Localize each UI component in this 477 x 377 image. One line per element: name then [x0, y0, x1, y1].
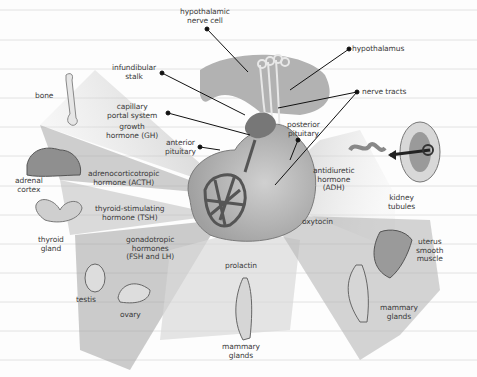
pituitary-diagram: hypothalamic nerve cell hypothalamus inf… [0, 0, 477, 377]
label-tsh: thyroid-stimulating hormone (TSH) [95, 205, 165, 222]
label-prolactin: prolactin [225, 262, 257, 271]
label-gonadotropic: gonadotropic hormones (FSH and LH) [126, 236, 174, 262]
label-posterior-pituitary: posterior pituitary [287, 121, 320, 138]
label-hypothalamus: hypothalamus [352, 45, 404, 54]
label-kidney-tubules: kidney tubules [388, 194, 415, 211]
label-mammary-glands-oxytocin: mammary glands [380, 304, 418, 321]
label-infundibular-stalk: infundibular stalk [112, 64, 156, 81]
label-nerve-tracts: nerve tracts [362, 88, 406, 97]
label-mammary-glands-prolactin: mammary glands [222, 343, 260, 360]
testis-icon [85, 264, 105, 292]
label-testis: testis [76, 296, 96, 305]
label-adh: antidiuretic hormone (ADH) [313, 167, 354, 193]
label-uterus-smooth-muscle: uterus smooth muscle [416, 238, 444, 264]
label-anterior-pituitary: anterior pituitary [165, 139, 196, 156]
label-thyroid-gland: thyroid gland [38, 236, 64, 253]
label-bone: bone [35, 92, 53, 101]
label-adrenal-cortex: adrenal cortex [15, 177, 43, 194]
label-capillary-portal-system: capillary portal system [107, 103, 157, 120]
label-hypothalamic-nerve-cell: hypothalamic nerve cell [180, 8, 230, 25]
label-growth-hormone: growth hormone (GH) [106, 123, 158, 140]
label-oxytocin: oxytocin [302, 218, 333, 227]
label-ovary: ovary [120, 311, 141, 320]
label-acth: adrenocorticotropic hormone (ACTH) [88, 170, 159, 187]
